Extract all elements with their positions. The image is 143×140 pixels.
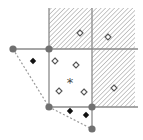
open-diamond-icon — [56, 88, 62, 94]
open-diamond-icon — [73, 62, 79, 68]
asterisk-icon: * — [67, 75, 74, 90]
vertex-dot-icon — [9, 45, 16, 52]
vertex-points — [9, 45, 95, 132]
vertex-dot-icon — [45, 103, 52, 110]
open-diamond-icon — [52, 58, 58, 64]
vertex-dot-icon — [88, 103, 95, 110]
hatched-cell — [92, 49, 135, 107]
filled-diamond-icon — [30, 58, 36, 64]
asterisk-marker: * — [67, 75, 74, 90]
open-diamond-icon — [81, 89, 87, 95]
diagram-canvas: * — [0, 0, 143, 140]
grid-diagram: * — [0, 0, 143, 140]
hatched-cell — [92, 8, 135, 49]
hatched-cell — [49, 8, 92, 49]
vertex-dot-icon — [88, 125, 95, 132]
filled-diamond-icon — [83, 112, 89, 118]
vertex-dot-icon — [45, 45, 52, 52]
filled-diamond-icon — [67, 108, 73, 114]
